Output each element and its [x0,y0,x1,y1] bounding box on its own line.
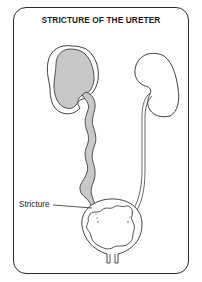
right-ureter-dilated [80,92,96,211]
left-kidney [135,53,179,116]
stricture-leader-line [53,205,92,208]
bladder-outer [82,199,142,263]
urinary-system-illustration [0,0,202,282]
stricture-label: Stricture [19,200,49,209]
left-ureter-outer [130,93,150,214]
left-ureter-inner [133,96,152,216]
